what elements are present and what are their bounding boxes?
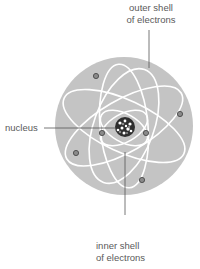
atom-diagram <box>0 0 200 269</box>
electron <box>139 177 144 182</box>
inner-shell-label: inner shell of electrons <box>96 240 166 264</box>
electron <box>73 150 78 155</box>
outer-shell-label: outer shell of electrons <box>116 2 186 26</box>
nucleus <box>115 117 135 137</box>
electron <box>177 111 182 116</box>
electron <box>93 73 98 78</box>
inner-shell-label-line2: of electrons <box>96 252 166 264</box>
outer-shell-label-line2: of electrons <box>116 14 186 26</box>
electron <box>143 130 148 135</box>
outer-shell-label-line1: outer shell <box>116 2 186 14</box>
electron <box>99 130 104 135</box>
inner-shell-label-line1: inner shell <box>96 240 166 252</box>
nucleus-label: nucleus <box>5 122 38 134</box>
